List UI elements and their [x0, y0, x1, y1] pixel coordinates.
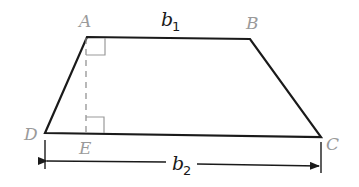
vertex-label-e: E	[78, 138, 92, 158]
vertex-label-d: D	[23, 124, 38, 144]
right-angle-mark-e	[86, 117, 104, 133]
dimension-arrow-left	[47, 161, 166, 162]
dimension-arrow-right	[197, 164, 319, 166]
trapezoid-diagram: A B C D E b 1 b 2	[0, 0, 359, 187]
base-label-b2-subscript: 2	[183, 163, 191, 178]
diagram-svg: A B C D E b 1 b 2	[0, 0, 359, 187]
right-angle-mark-a	[86, 38, 105, 55]
vertex-label-c: C	[326, 134, 339, 154]
base-label-b1-subscript: 1	[172, 19, 180, 34]
vertex-label-a: A	[77, 11, 91, 31]
vertex-label-b: B	[245, 13, 259, 33]
